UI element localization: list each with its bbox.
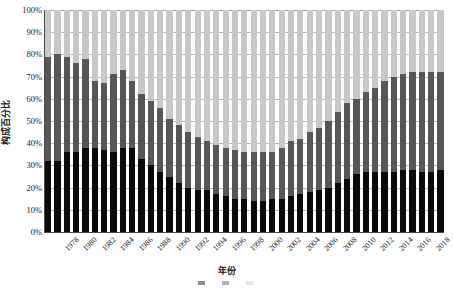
bar-segment <box>73 152 79 232</box>
bar <box>232 10 238 232</box>
bar-segment <box>148 101 154 165</box>
bar-segment <box>232 150 238 199</box>
bar-segment <box>110 10 116 74</box>
bar-segment <box>344 179 350 232</box>
bar <box>288 10 294 232</box>
bar-segment <box>335 112 341 183</box>
bar-segment <box>325 121 331 188</box>
bar-segment <box>223 10 229 148</box>
bar-segment <box>241 10 247 152</box>
x-tick-label: 1994 <box>212 236 229 253</box>
bar <box>260 10 266 232</box>
y-tick-label: 40% <box>2 139 42 147</box>
bar-segment <box>428 10 434 72</box>
bar-segment <box>223 196 229 232</box>
y-axis-ticks: 0%10%20%30%40%50%60%70%80%90%100% <box>0 0 42 289</box>
legend-item <box>222 281 232 285</box>
bar-segment <box>325 188 331 232</box>
bar <box>409 10 415 232</box>
bar-segment <box>400 74 406 169</box>
bar <box>316 10 322 232</box>
bar-segment <box>241 152 247 199</box>
bar-segment <box>185 188 191 232</box>
y-tick-label: 70% <box>2 73 42 81</box>
bar-segment <box>138 159 144 232</box>
legend-swatch <box>198 281 205 285</box>
bar-segment <box>297 194 303 232</box>
bar-segment <box>316 190 322 232</box>
bar <box>344 10 350 232</box>
bar-segment <box>391 172 397 232</box>
bar-segment <box>297 10 303 139</box>
x-tick-label: 1984 <box>119 236 136 253</box>
legend-item <box>198 281 208 285</box>
bar-segment <box>64 10 70 57</box>
bar-segment <box>269 152 275 199</box>
bar-segment <box>344 10 350 103</box>
bar-segment <box>409 72 415 170</box>
bar <box>64 10 70 232</box>
bar-segment <box>381 172 387 232</box>
y-tick-label: 100% <box>2 6 42 14</box>
x-tick-label: 2018 <box>434 236 451 253</box>
bar-segment <box>148 165 154 232</box>
bar-segment <box>120 10 126 70</box>
bar-segment <box>92 148 98 232</box>
bar-segment <box>363 172 369 232</box>
bar-segment <box>138 94 144 158</box>
bar-segment <box>400 10 406 74</box>
bar-segment <box>307 132 313 192</box>
bar-segment <box>419 10 425 72</box>
x-tick-label: 1982 <box>100 236 117 253</box>
legend-item <box>246 281 256 285</box>
bar-segment <box>428 172 434 232</box>
bar <box>157 10 163 232</box>
y-tick-label: 90% <box>2 28 42 36</box>
x-tick-label: 2002 <box>286 236 303 253</box>
bar-segment <box>176 183 182 232</box>
bar-segment <box>391 10 397 77</box>
bar-segment <box>138 10 144 94</box>
bar-segment <box>110 74 116 152</box>
bar <box>185 10 191 232</box>
x-tick-label: 1996 <box>230 236 247 253</box>
bar <box>110 10 116 232</box>
x-tick-label: 1986 <box>138 236 155 253</box>
bar <box>269 10 275 232</box>
bar-segment <box>204 190 210 232</box>
y-tick-label: 30% <box>2 161 42 169</box>
bar <box>195 10 201 232</box>
bar-segment <box>297 139 303 195</box>
bar-segment <box>353 174 359 232</box>
bar <box>204 10 210 232</box>
bar-segment <box>157 10 163 108</box>
bar-segment <box>353 10 359 99</box>
bar-segment <box>101 83 107 150</box>
bar-segment <box>391 77 397 172</box>
bar-segment <box>45 10 51 57</box>
bar-segment <box>129 10 135 81</box>
bar-segment <box>316 10 322 128</box>
x-axis-ticks: 1978198019821984198619881990199219941996… <box>44 234 443 264</box>
x-tick-label: 1978 <box>63 236 80 253</box>
bar <box>176 10 182 232</box>
bar <box>381 10 387 232</box>
bar-segment <box>251 152 257 201</box>
bar <box>241 10 247 232</box>
bar-segment <box>381 81 387 172</box>
bar-segment <box>64 57 70 152</box>
bar-segment <box>288 10 294 141</box>
bar-segment <box>409 170 415 232</box>
bar-segment <box>307 10 313 132</box>
bar <box>73 10 79 232</box>
x-tick-label: 1998 <box>249 236 266 253</box>
bar-segment <box>251 201 257 232</box>
bar-segment <box>279 199 285 232</box>
bar-segment <box>92 10 98 81</box>
x-tick-label: 2004 <box>305 236 322 253</box>
bar <box>419 10 425 232</box>
bar-segment <box>372 172 378 232</box>
bar <box>213 10 219 232</box>
bar <box>82 10 88 232</box>
bar-segment <box>82 148 88 232</box>
